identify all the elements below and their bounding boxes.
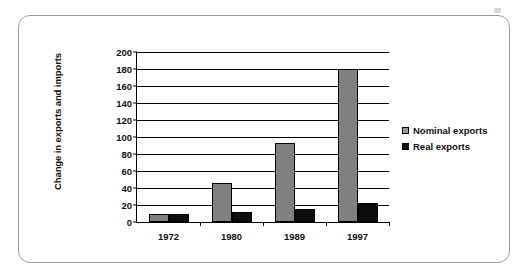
bar-1997-real-exports: [358, 203, 378, 222]
plot-area: 0204060801001201401601802001972198019891…: [136, 52, 389, 223]
bar-group-1980: [212, 52, 252, 222]
x-axis-tick-mark: [326, 222, 327, 226]
y-axis-tick-label: 0: [127, 217, 132, 228]
y-axis-tick-label: 100: [116, 132, 132, 143]
legend-item-nominal-exports: Nominal exports: [402, 125, 512, 136]
y-axis-tick-label: 120: [116, 115, 132, 126]
x-axis-tick-mark: [389, 222, 390, 226]
y-axis-tick-mark: [133, 86, 137, 87]
y-axis-tick-mark: [133, 120, 137, 121]
y-axis-tick-label: 200: [116, 47, 132, 58]
legend-label-real-exports: Real exports: [413, 141, 470, 152]
bar-1972-nominal-exports: [149, 214, 169, 223]
y-axis-title: Change in exports and imports: [52, 37, 63, 207]
y-axis-tick-label: 80: [121, 149, 132, 160]
y-axis-tick-mark: [133, 103, 137, 104]
bar-1989-real-exports: [295, 209, 315, 222]
y-axis-tick-mark: [133, 188, 137, 189]
y-axis-tick-label: 20: [121, 200, 132, 211]
x-axis-tick-mark: [200, 222, 201, 226]
chart-legend: Nominal exports Real exports: [402, 125, 512, 157]
y-axis-tick-label: 180: [116, 64, 132, 75]
bar-1972-real-exports: [169, 214, 189, 223]
bar-1989-nominal-exports: [275, 143, 295, 222]
x-axis-tick-mark: [263, 222, 264, 226]
bar-group-1972: [149, 52, 189, 222]
y-axis-tick-mark: [133, 52, 137, 53]
bar-chart: Change in exports and imports 0204060801…: [19, 16, 511, 264]
x-axis-tick-label-1989: 1989: [284, 231, 305, 242]
x-axis-tick-label-1980: 1980: [221, 231, 242, 242]
x-axis-tick-label-1997: 1997: [347, 231, 368, 242]
y-axis-tick-mark: [133, 171, 137, 172]
y-axis-tick-mark: [133, 137, 137, 138]
bar-1980-real-exports: [232, 212, 252, 222]
real-swatch-icon: [402, 143, 409, 150]
legend-item-real-exports: Real exports: [402, 141, 512, 152]
nominal-swatch-icon: [402, 127, 409, 134]
bar-group-1997: [338, 52, 378, 222]
bar-1997-nominal-exports: [338, 69, 358, 222]
y-axis-tick-label: 160: [116, 81, 132, 92]
scan-artifact: [494, 8, 501, 13]
x-axis-tick-label-1972: 1972: [158, 231, 179, 242]
legend-label-nominal-exports: Nominal exports: [413, 125, 487, 136]
y-axis-tick-label: 60: [121, 166, 132, 177]
y-axis-tick-label: 40: [121, 183, 132, 194]
y-axis-tick-mark: [133, 205, 137, 206]
bar-group-1989: [275, 52, 315, 222]
y-axis-tick-mark: [133, 69, 137, 70]
bar-1980-nominal-exports: [212, 183, 232, 222]
y-axis-tick-label: 140: [116, 98, 132, 109]
y-axis-tick-mark: [133, 222, 137, 223]
figure-frame: Change in exports and imports 0204060801…: [18, 15, 510, 263]
y-axis-tick-mark: [133, 154, 137, 155]
